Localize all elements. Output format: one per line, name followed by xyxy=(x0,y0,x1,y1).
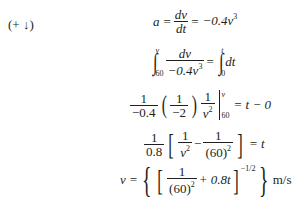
eq2-equals: = xyxy=(206,54,213,70)
eq3-f1-num: 1 xyxy=(139,92,150,105)
eq3-frac2: 1 −2 xyxy=(170,92,188,119)
eval-lower: 60 xyxy=(222,111,230,120)
eq4-f3-den: (60)2 xyxy=(203,142,233,159)
eq4-f3-num: 1 xyxy=(213,129,224,142)
eq1-rhs: −0.4v3 xyxy=(202,13,237,29)
eq3-f3-den: v2 xyxy=(201,103,215,120)
eq2-frac-num: dv xyxy=(177,47,193,60)
sign-convention-text: (+ ↓) xyxy=(8,17,34,32)
eq5-frac: 1 (60)2 xyxy=(167,165,197,195)
eq5-f-den-exp: 2 xyxy=(191,180,195,189)
right-paren-icon: ) xyxy=(192,92,197,118)
eq3-frac3: 1 v2 xyxy=(201,90,215,120)
equation-acceleration: a = dv dt = −0.4v3 xyxy=(153,8,237,35)
eq4-minus: − xyxy=(194,136,201,152)
eq4-frac1: 1 0.8 xyxy=(144,131,164,158)
eq3-f2-den: −2 xyxy=(170,105,188,119)
eq1-frac-num: dv xyxy=(173,8,189,21)
eq4-f2-num: 1 xyxy=(180,129,191,142)
eq2-frac-den-base: −0.4v xyxy=(168,63,199,78)
eq2-fraction: dv −0.4v3 xyxy=(166,47,205,77)
eval-bar: v 60 xyxy=(219,90,230,120)
sign-convention-label: (+ ↓) xyxy=(8,17,34,33)
right-bracket-icon: ] xyxy=(233,165,239,195)
left-bracket-icon: [ xyxy=(169,129,175,159)
eq4-f3-den-base: (60) xyxy=(205,145,227,160)
eq1-equals: = xyxy=(164,14,171,30)
eq1-fraction: dv dt xyxy=(173,8,189,35)
right-brace-icon: } xyxy=(259,162,269,198)
equation-integral: ∫ v 60 dv −0.4v3 = ∫ t 0 dt xyxy=(152,46,235,78)
eq5-f-den: (60)2 xyxy=(167,178,197,195)
eq4-frac2: 1 v2 xyxy=(178,129,192,159)
eq1-rhs-base: −0.4v xyxy=(202,14,233,29)
eq5-lhs: v = xyxy=(120,172,138,188)
eq5-f-den-base: (60) xyxy=(169,181,191,196)
eq4-frac3: 1 (60)2 xyxy=(203,129,233,159)
left-paren-icon: ( xyxy=(161,92,166,118)
eq1-rhs-exp: 3 xyxy=(233,12,237,21)
eq3-rhs: = t − 0 xyxy=(234,97,271,113)
right-bracket-icon: ] xyxy=(237,129,243,159)
integral-sign-icon: ∫ xyxy=(153,50,158,74)
eq1-frac-den: dt xyxy=(174,21,188,35)
eq4-rhs: = t xyxy=(249,136,265,152)
eq3-frac1: 1 −0.4 xyxy=(130,92,158,119)
eq4-f2-den-exp: 2 xyxy=(186,144,190,153)
eq5-f-num: 1 xyxy=(177,165,188,178)
eq1-lhs: a xyxy=(153,14,160,30)
eq1-equals-2: = xyxy=(191,14,198,30)
left-brace-icon: { xyxy=(142,162,152,198)
eq4-f1-den: 0.8 xyxy=(144,144,164,158)
eq3-f3-den-exp: 2 xyxy=(209,105,213,114)
eq4-f3-den-exp: 2 xyxy=(227,144,231,153)
eq3-f1-den: −0.4 xyxy=(130,105,158,119)
eval-upper: v xyxy=(222,90,230,99)
eq2-frac-den: −0.4v3 xyxy=(166,60,205,77)
equation-evaluated: 1 −0.4 ( 1 −2 ) 1 v2 v 60 = t − 0 xyxy=(128,90,271,120)
eq2-frac-den-exp: 3 xyxy=(198,62,202,71)
eq4-f2-den: v2 xyxy=(178,142,192,159)
equation-simplified: 1 0.8 [ 1 v2 − 1 (60)2 ] = t xyxy=(142,129,265,159)
int2-integrand: dt xyxy=(225,54,235,70)
eq3-f3-num: 1 xyxy=(202,90,213,103)
eq5-units: m/s xyxy=(273,172,292,188)
eq4-f1-num: 1 xyxy=(149,131,160,144)
equation-velocity: v = { [ 1 (60)2 + 0.8t ] −1/2 } m/s xyxy=(120,162,291,198)
left-bracket-icon: [ xyxy=(157,165,163,195)
integral-sign-icon: ∫ xyxy=(219,50,224,74)
eq5-plus-term: + 0.8t xyxy=(199,172,231,188)
eq3-f3-den-base: v xyxy=(203,106,209,121)
eq3-f2-num: 1 xyxy=(174,92,185,105)
eq5-outer-exp: −1/2 xyxy=(241,164,256,173)
